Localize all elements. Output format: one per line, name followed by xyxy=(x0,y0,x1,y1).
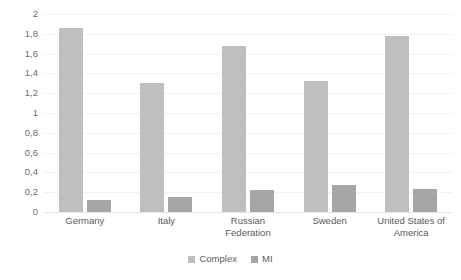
axis-baseline xyxy=(44,212,452,213)
y-axis-tick-label: 0,6 xyxy=(0,148,38,158)
bar-mi[interactable] xyxy=(250,190,274,212)
bar-chart: 21,81,61,41,210,80,60,40,20 GermanyItaly… xyxy=(0,0,461,280)
y-axis-tick-label: 1,2 xyxy=(0,88,38,98)
legend-label: Complex xyxy=(199,254,237,264)
y-axis-tick-label: 0 xyxy=(0,207,38,217)
y-axis-tick-label: 0,2 xyxy=(0,187,38,197)
bar-group-bars xyxy=(126,14,208,212)
y-axis-tick-label: 0,8 xyxy=(0,128,38,138)
legend-item-complex[interactable]: Complex xyxy=(188,254,237,264)
bar-mi[interactable] xyxy=(413,189,437,212)
bar-group-bars xyxy=(370,14,452,212)
bar-complex[interactable] xyxy=(59,28,83,212)
y-axis: 21,81,61,41,210,80,60,40,20 xyxy=(0,14,38,212)
y-axis-tick-label: 0,4 xyxy=(0,167,38,177)
x-axis: GermanyItalyRussian FederationSwedenUnit… xyxy=(44,215,452,251)
legend-swatch-icon xyxy=(188,256,195,263)
bar-group xyxy=(207,14,289,212)
bar-group xyxy=(370,14,452,212)
bar-complex[interactable] xyxy=(304,81,328,212)
bar-group-bars xyxy=(289,14,371,212)
bar-complex[interactable] xyxy=(140,83,164,212)
y-axis-tick-label: 2 xyxy=(0,9,38,19)
x-axis-category-label: Sweden xyxy=(289,215,371,251)
bar-mi[interactable] xyxy=(332,185,356,212)
x-axis-category-label: Russian Federation xyxy=(207,215,289,251)
x-axis-category-label: Italy xyxy=(126,215,208,251)
y-axis-tick-label: 1,4 xyxy=(0,68,38,78)
legend-item-mi[interactable]: MI xyxy=(251,254,273,264)
bar-complex[interactable] xyxy=(222,46,246,212)
legend-swatch-icon xyxy=(251,256,258,263)
bar-group xyxy=(126,14,208,212)
bar-complex[interactable] xyxy=(385,36,409,212)
bar-group xyxy=(44,14,126,212)
x-axis-category-label: Germany xyxy=(44,215,126,251)
legend-label: MI xyxy=(262,254,273,264)
y-axis-tick-label: 1,8 xyxy=(0,29,38,39)
bar-group-bars xyxy=(207,14,289,212)
y-axis-tick-label: 1 xyxy=(0,108,38,118)
bar-mi[interactable] xyxy=(87,200,111,212)
bar-group-bars xyxy=(44,14,126,212)
legend: ComplexMI xyxy=(0,254,461,264)
bar-mi[interactable] xyxy=(168,197,192,212)
plot-area xyxy=(44,14,452,212)
x-axis-category-label: United States of America xyxy=(370,215,452,251)
y-axis-tick-label: 1,6 xyxy=(0,49,38,59)
bar-group xyxy=(289,14,371,212)
bar-groups xyxy=(44,14,452,212)
